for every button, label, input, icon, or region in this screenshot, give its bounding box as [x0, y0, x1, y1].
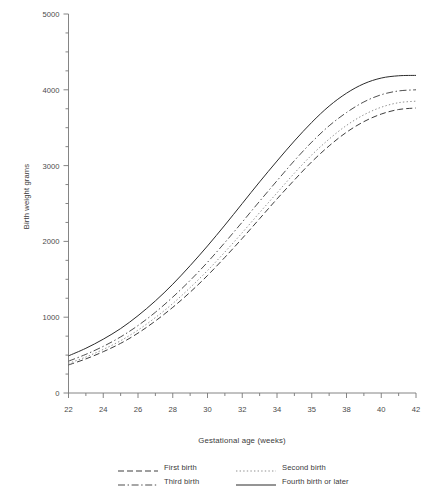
- legend-line-swatch: [118, 462, 158, 472]
- x-tick-label: 30: [203, 405, 211, 414]
- legend-entry: Third birth: [118, 474, 236, 488]
- x-tick-label: 32: [238, 405, 246, 414]
- x-tick-label: 28: [169, 405, 177, 414]
- legend-entry: Fourth birth or later: [236, 474, 350, 488]
- x-tick-label: 22: [64, 405, 72, 414]
- y-tick-label: 0: [0, 389, 60, 398]
- chart-legend: First birthSecond birthThird birthFourth…: [118, 460, 350, 488]
- y-axis-title: Birth weight grams: [22, 127, 31, 267]
- x-tick-label: 35: [308, 405, 316, 414]
- series-line: [69, 90, 417, 361]
- y-tick-label: 4000: [0, 85, 60, 94]
- series-line: [69, 101, 417, 363]
- legend-label: Third birth: [164, 477, 199, 486]
- legend-line-swatch: [118, 476, 158, 486]
- legend-label: First birth: [164, 463, 197, 472]
- legend-entry: Second birth: [236, 460, 350, 474]
- x-tick-label: 38: [342, 405, 350, 414]
- birth-weight-growth-chart: 010002000300040005000 222426283032343538…: [0, 0, 433, 492]
- legend-entry: First birth: [118, 460, 236, 474]
- y-tick-label: 1000: [0, 313, 60, 322]
- x-tick-label: 34: [273, 405, 281, 414]
- series-line: [69, 108, 417, 365]
- y-axis-ticks: [64, 14, 69, 393]
- plot-area: 010002000300040005000 222426283032343538…: [0, 0, 433, 400]
- legend-label: Fourth birth or later: [282, 477, 349, 486]
- series-line: [69, 75, 417, 355]
- legend-label: Second birth: [282, 463, 326, 472]
- y-tick-label: 5000: [0, 10, 60, 19]
- x-tick-label: 24: [99, 405, 107, 414]
- x-tick-label: 42: [412, 405, 420, 414]
- x-axis-title: Gestational age (weeks): [68, 436, 416, 445]
- legend-line-swatch: [236, 462, 276, 472]
- x-tick-label: 26: [134, 405, 142, 414]
- x-tick-label: 40: [377, 405, 385, 414]
- x-axis-ticks: [69, 393, 417, 398]
- legend-line-swatch: [236, 476, 276, 486]
- data-series-group: [69, 75, 417, 365]
- chart-canvas: [0, 0, 433, 400]
